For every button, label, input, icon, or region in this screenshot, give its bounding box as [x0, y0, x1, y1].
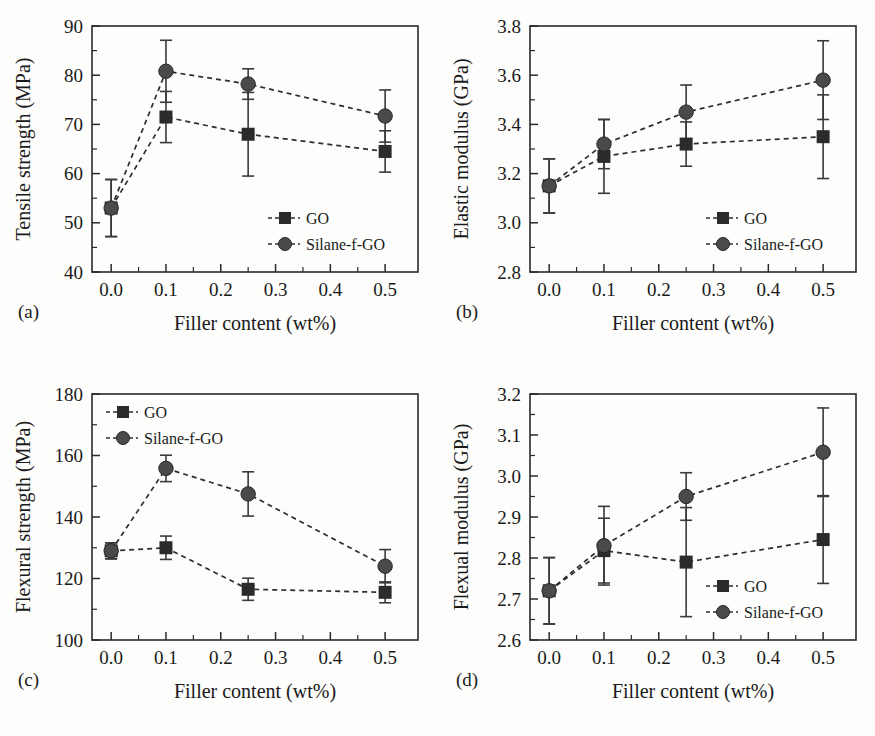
data-point-marker-circle: [816, 73, 830, 87]
data-point-marker-circle: [159, 64, 173, 78]
legend: GOSilane-f-GO: [706, 578, 823, 621]
chart-panel-a: 4050607080900.00.10.20.30.40.5Filler con…: [0, 0, 437, 368]
plot-svg: 2.62.72.82.93.03.13.20.00.10.20.30.40.5F…: [438, 368, 875, 736]
x-tick-label: 0.0: [537, 647, 561, 668]
y-tick-label: 120: [55, 568, 84, 589]
y-tick-label: 2.7: [497, 589, 521, 610]
y-axis-title: Tensile strength (MPa): [12, 57, 35, 240]
y-tick-label: 3.8: [497, 16, 521, 37]
y-axis-title: Elastic modulus (GPa): [450, 58, 473, 239]
data-point-marker-square: [159, 541, 172, 554]
data-point-marker-circle: [679, 489, 693, 503]
panel-label-a: (a): [18, 301, 39, 323]
legend-marker-circle: [717, 238, 730, 251]
y-tick-label: 100: [55, 630, 84, 651]
y-tick-label: 160: [55, 445, 84, 466]
legend-label-silane-f-go: Silane-f-GO: [144, 430, 223, 447]
y-tick-label: 2.8: [497, 548, 521, 569]
x-tick-label: 0.3: [702, 647, 726, 668]
y-tick-label: 90: [64, 16, 83, 37]
legend-marker-circle: [117, 432, 130, 445]
y-tick-label: 180: [55, 384, 84, 405]
legend-label-go: GO: [144, 404, 167, 421]
x-tick-label: 0.0: [99, 647, 123, 668]
y-tick-label: 3.1: [497, 425, 521, 446]
x-tick-label: 0.4: [756, 647, 780, 668]
data-point-marker-circle: [159, 461, 173, 475]
y-tick-label: 3.2: [497, 384, 521, 405]
data-point-marker-circle: [104, 201, 118, 215]
data-point-marker-square: [379, 145, 392, 158]
data-point-marker-circle: [241, 487, 255, 501]
x-tick-label: 0.4: [756, 279, 780, 300]
data-point-marker-square: [242, 128, 255, 141]
data-point-marker-square: [680, 556, 693, 569]
plot-svg: 1001201401601800.00.10.20.30.40.5Filler …: [0, 368, 437, 736]
data-point-marker-square: [379, 586, 392, 599]
y-tick-label: 3.6: [497, 65, 521, 86]
legend-label-go: GO: [744, 578, 767, 595]
chart-panel-d: 2.62.72.82.93.03.13.20.00.10.20.30.40.5F…: [438, 368, 875, 736]
legend: GOSilane-f-GO: [268, 210, 385, 253]
data-point-marker-square: [242, 583, 255, 596]
y-tick-label: 3.2: [497, 163, 521, 184]
y-tick-label: 2.6: [497, 630, 521, 651]
x-tick-label: 0.1: [592, 279, 616, 300]
y-tick-label: 80: [64, 65, 83, 86]
chart-panel-c: 1001201401601800.00.10.20.30.40.5Filler …: [0, 368, 437, 736]
data-point-marker-square: [597, 150, 610, 163]
data-point-marker-circle: [542, 179, 556, 193]
x-tick-label: 0.5: [811, 279, 835, 300]
y-tick-label: 50: [64, 212, 83, 233]
x-axis-title: Filler content (wt%): [174, 312, 336, 335]
data-point-marker-circle: [597, 539, 611, 553]
legend-marker-square: [717, 580, 729, 592]
legend-marker-circle: [279, 238, 292, 251]
y-tick-label: 2.8: [497, 262, 521, 283]
x-axis-title: Filler content (wt%): [174, 680, 336, 703]
y-tick-label: 40: [64, 262, 83, 283]
data-point-marker-square: [817, 533, 830, 546]
data-point-marker-square: [159, 111, 172, 124]
data-point-marker-square: [680, 138, 693, 151]
legend-marker-square: [117, 406, 129, 418]
legend-label-go: GO: [306, 210, 329, 227]
legend-label-go: GO: [744, 210, 767, 227]
figure-container: 4050607080900.00.10.20.30.40.5Filler con…: [0, 0, 875, 736]
x-tick-label: 0.4: [318, 647, 342, 668]
chart-panel-b: 2.83.03.23.43.63.80.00.10.20.30.40.5Fill…: [438, 0, 875, 368]
x-tick-label: 0.2: [647, 647, 671, 668]
y-tick-label: 70: [64, 114, 83, 135]
data-point-marker-circle: [816, 445, 830, 459]
y-axis-title: Flexural strength (MPa): [12, 421, 35, 613]
x-tick-label: 0.1: [154, 647, 178, 668]
data-point-marker-circle: [104, 544, 118, 558]
y-tick-label: 3.4: [497, 114, 521, 135]
x-tick-label: 0.0: [99, 279, 123, 300]
x-tick-label: 0.5: [373, 279, 397, 300]
plot-frame: [92, 394, 418, 640]
y-tick-label: 2.9: [497, 507, 521, 528]
legend-label-silane-f-go: Silane-f-GO: [744, 604, 823, 621]
data-point-marker-circle: [241, 77, 255, 91]
legend: GOSilane-f-GO: [106, 404, 223, 447]
y-tick-label: 60: [64, 163, 83, 184]
plot-svg: 4050607080900.00.10.20.30.40.5Filler con…: [0, 0, 437, 368]
y-tick-label: 140: [55, 507, 84, 528]
x-tick-label: 0.2: [209, 647, 233, 668]
x-tick-label: 0.4: [318, 279, 342, 300]
x-tick-label: 0.3: [702, 279, 726, 300]
y-tick-label: 3.0: [497, 466, 521, 487]
panel-label-c: (c): [18, 669, 39, 691]
x-tick-label: 0.2: [209, 279, 233, 300]
legend: GOSilane-f-GO: [706, 210, 823, 253]
data-point-marker-circle: [378, 109, 392, 123]
x-axis-title: Filler content (wt%): [612, 312, 774, 335]
legend-marker-square: [279, 212, 291, 224]
plot-svg: 2.83.03.23.43.63.80.00.10.20.30.40.5Fill…: [438, 0, 875, 368]
x-tick-label: 0.2: [647, 279, 671, 300]
legend-label-silane-f-go: Silane-f-GO: [744, 236, 823, 253]
x-tick-label: 0.1: [592, 647, 616, 668]
data-point-marker-circle: [542, 584, 556, 598]
panel-label-d: (d): [456, 669, 478, 691]
